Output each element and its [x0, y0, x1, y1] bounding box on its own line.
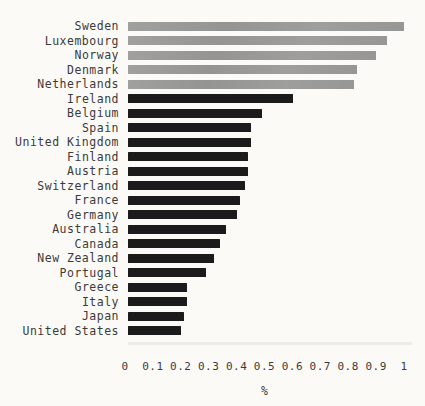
bar-row-japan: Japan — [0, 309, 425, 324]
bar-spain — [128, 123, 251, 132]
bar-row-australia: Australia — [0, 222, 425, 237]
category-label-japan: Japan — [0, 309, 128, 324]
bar-row-france: France — [0, 193, 425, 208]
category-label-france: France — [0, 193, 128, 208]
bar-netherlands — [128, 80, 354, 89]
bar-row-austria: Austria — [0, 164, 425, 179]
bar-australia — [128, 225, 226, 234]
bar-row-portugal: Portugal — [0, 266, 425, 281]
category-label-canada: Canada — [0, 237, 128, 252]
category-label-denmark: Denmark — [0, 63, 128, 78]
bar-ireland — [128, 94, 293, 103]
x-axis: 00.10.20.30.40.50.60.70.80.91 — [0, 360, 425, 374]
x-tick-0-8: 0.8 — [338, 360, 359, 373]
bar-denmark — [128, 65, 357, 74]
category-label-new-zealand: New Zealand — [0, 251, 128, 266]
x-tick-0: 0 — [121, 360, 128, 373]
bar-finland — [128, 152, 248, 161]
bar-sweden — [128, 22, 404, 31]
bar-germany — [128, 210, 237, 219]
category-label-finland: Finland — [0, 150, 128, 165]
category-label-greece: Greece — [0, 280, 128, 295]
category-label-austria: Austria — [0, 164, 128, 179]
bar-row-italy: Italy — [0, 295, 425, 310]
bar-belgium — [128, 109, 262, 118]
category-label-belgium: Belgium — [0, 106, 128, 121]
bar-row-switzerland: Switzerland — [0, 179, 425, 194]
bar-luxembourg — [128, 36, 387, 45]
bar-france — [128, 196, 240, 205]
bar-new-zealand — [128, 254, 214, 263]
x-tick-0-1: 0.1 — [142, 360, 163, 373]
x-tick-0-2: 0.2 — [170, 360, 191, 373]
category-label-ireland: Ireland — [0, 92, 128, 107]
x-tick-0-9: 0.9 — [365, 360, 386, 373]
bar-row-sweden: Sweden — [0, 19, 425, 34]
bar-row-luxembourg: Luxembourg — [0, 34, 425, 49]
x-tick-0-3: 0.3 — [198, 360, 219, 373]
x-axis-line — [128, 342, 412, 345]
category-label-luxembourg: Luxembourg — [0, 34, 128, 49]
bar-united-states — [128, 326, 181, 335]
bar-row-new-zealand: New Zealand — [0, 251, 425, 266]
x-axis-label: % — [261, 384, 268, 398]
category-label-netherlands: Netherlands — [0, 77, 128, 92]
bar-row-greece: Greece — [0, 280, 425, 295]
category-label-sweden: Sweden — [0, 19, 128, 34]
bar-austria — [128, 167, 248, 176]
bar-greece — [128, 283, 187, 292]
bar-row-united-kingdom: United Kingdom — [0, 135, 425, 150]
bar-row-germany: Germany — [0, 208, 425, 223]
category-label-norway: Norway — [0, 48, 128, 63]
bar-row-canada: Canada — [0, 237, 425, 252]
category-label-switzerland: Switzerland — [0, 179, 128, 194]
category-label-spain: Spain — [0, 121, 128, 136]
x-tick-0-6: 0.6 — [282, 360, 303, 373]
category-label-united-kingdom: United Kingdom — [0, 135, 128, 150]
bar-chart: SwedenLuxembourgNorwayDenmarkNetherlands… — [0, 0, 425, 406]
x-tick-1: 1 — [400, 360, 407, 373]
category-label-portugal: Portugal — [0, 266, 128, 281]
bar-row-spain: Spain — [0, 121, 425, 136]
bar-italy — [128, 297, 187, 306]
bar-switzerland — [128, 181, 245, 190]
bar-canada — [128, 239, 220, 248]
bar-row-united-states: United States — [0, 324, 425, 339]
category-label-italy: Italy — [0, 295, 128, 310]
bar-row-ireland: Ireland — [0, 92, 425, 107]
bar-row-netherlands: Netherlands — [0, 77, 425, 92]
category-label-australia: Australia — [0, 222, 128, 237]
bar-row-finland: Finland — [0, 150, 425, 165]
bar-row-denmark: Denmark — [0, 63, 425, 78]
x-tick-0-4: 0.4 — [226, 360, 247, 373]
category-label-germany: Germany — [0, 208, 128, 223]
bar-row-belgium: Belgium — [0, 106, 425, 121]
bar-portugal — [128, 268, 206, 277]
x-tick-0-5: 0.5 — [254, 360, 275, 373]
plot-rows: SwedenLuxembourgNorwayDenmarkNetherlands… — [0, 19, 425, 338]
bar-united-kingdom — [128, 138, 251, 147]
x-tick-0-7: 0.7 — [310, 360, 331, 373]
bar-norway — [128, 51, 376, 60]
bar-japan — [128, 312, 184, 321]
bar-row-norway: Norway — [0, 48, 425, 63]
category-label-united-states: United States — [0, 324, 128, 339]
